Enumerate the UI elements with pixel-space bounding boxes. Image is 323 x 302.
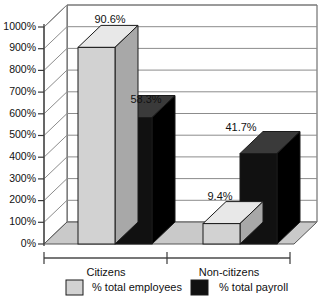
y-tick-label-200: 200%: [9, 193, 36, 205]
legend-label-employees: % total employees: [92, 281, 182, 293]
y-tick-label-600: 600%: [9, 107, 36, 119]
y-tick-label-400: 400%: [9, 150, 36, 162]
y-tick-label-1000: 1000%: [3, 20, 36, 32]
value-label-citizens-employees: 90.6%: [94, 13, 125, 25]
value-label-citizens-payroll: 58.3%: [130, 93, 161, 105]
chart-container: 1000% 900% 800% 700% 600% 500% 400% 300%…: [0, 0, 323, 302]
x-axis: [44, 252, 290, 264]
x-label-non-citizens: Non-citizens: [199, 266, 260, 278]
y-axis-ticks: [38, 27, 44, 244]
y-tick-label-0: 0%: [21, 237, 36, 249]
chart-legend: % total employees % total payroll: [66, 280, 288, 295]
y-tick-label-500: 500%: [9, 128, 36, 140]
y-tick-label-700: 700%: [9, 85, 36, 97]
value-label-noncitizens-payroll: 41.7%: [225, 121, 256, 133]
value-label-noncitizens-employees: 9.4%: [207, 190, 232, 202]
legend-item-payroll[interactable]: % total payroll: [191, 280, 288, 295]
bar-chart-3d: 1000% 900% 800% 700% 600% 500% 400% 300%…: [0, 0, 323, 302]
legend-swatch-payroll: [191, 280, 208, 295]
x-axis-category-labels: Citizens Non-citizens: [86, 266, 259, 278]
legend-item-employees[interactable]: % total employees: [66, 280, 182, 295]
y-tick-label-800: 800%: [9, 63, 36, 75]
y-tick-label-100: 100%: [9, 215, 36, 227]
legend-swatch-employees: [66, 280, 83, 295]
legend-label-payroll: % total payroll: [219, 281, 288, 293]
y-axis-tick-labels: 1000% 900% 800% 700% 600% 500% 400% 300%…: [3, 20, 36, 249]
x-label-citizens: Citizens: [86, 266, 126, 278]
y-tick-label-300: 300%: [9, 172, 36, 184]
y-tick-label-900: 900%: [9, 41, 36, 53]
bar-citizens-employees[interactable]: [78, 25, 138, 244]
